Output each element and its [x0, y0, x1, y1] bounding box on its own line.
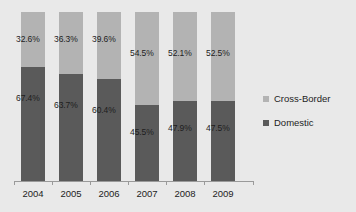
x-axis-label-2004: 2004	[13, 188, 53, 199]
bar-segment-domestic[interactable]: 47.9%	[173, 101, 197, 182]
bar-group-2009[interactable]: 52.5% 47.5%	[211, 12, 235, 182]
x-axis-line	[14, 181, 254, 182]
bar-group-2005[interactable]: 36.3% 63.7%	[59, 12, 83, 182]
bar-label-cross-border: 32.6%	[16, 34, 40, 44]
bar-label-cross-border: 54.5%	[130, 48, 154, 58]
x-axis-label-2007: 2007	[127, 188, 167, 199]
bar-segment-cross-border[interactable]: 52.1%	[173, 12, 197, 101]
bar-label-domestic: 47.9%	[168, 123, 192, 133]
legend-item-domestic[interactable]: Domestic	[263, 114, 353, 131]
bar-segment-cross-border[interactable]: 39.6%	[97, 12, 121, 79]
bar-segment-cross-border[interactable]: 54.5%	[135, 12, 159, 105]
bar-group-2004[interactable]: 32.6% 67.4%	[21, 12, 45, 182]
bar-segment-cross-border[interactable]: 32.6%	[21, 12, 45, 67]
chart-legend: Cross-Border Domestic	[263, 90, 353, 138]
bar-label-cross-border: 52.1%	[168, 48, 192, 58]
legend-item-cross-border[interactable]: Cross-Border	[263, 90, 353, 107]
stacked-bar-chart: 32.6% 67.4% 36.3% 63.7% 39.6% 60.4%	[0, 0, 356, 212]
plot-area: 32.6% 67.4% 36.3% 63.7% 39.6% 60.4%	[14, 6, 254, 182]
bar-segment-domestic[interactable]: 45.5%	[135, 105, 159, 182]
bar-label-domestic: 63.7%	[54, 100, 78, 110]
bar-group-2008[interactable]: 52.1% 47.9%	[173, 12, 197, 182]
bar-label-domestic: 67.4%	[16, 93, 40, 103]
x-axis-label-2009: 2009	[203, 188, 243, 199]
x-axis-label-2006: 2006	[89, 188, 129, 199]
bar-segment-domestic[interactable]: 67.4%	[21, 67, 45, 182]
x-axis-tick	[90, 181, 91, 185]
x-axis-tick	[14, 181, 15, 185]
x-axis-label-2005: 2005	[51, 188, 91, 199]
bar-label-domestic: 60.4%	[92, 105, 116, 115]
legend-swatch-icon	[263, 120, 269, 126]
bar-group-2006[interactable]: 39.6% 60.4%	[97, 12, 121, 182]
x-axis-label-2008: 2008	[165, 188, 205, 199]
bar-label-domestic: 45.5%	[130, 127, 154, 137]
bar-group-2007[interactable]: 54.5% 45.5%	[135, 12, 159, 182]
legend-label-cross-border: Cross-Border	[274, 93, 331, 104]
x-axis-tick	[204, 181, 205, 185]
bar-segment-cross-border[interactable]: 36.3%	[59, 12, 83, 74]
legend-swatch-icon	[263, 96, 269, 102]
bar-label-cross-border: 36.3%	[54, 34, 78, 44]
x-axis-tick	[253, 181, 254, 185]
bar-segment-domestic[interactable]: 60.4%	[97, 79, 121, 182]
bar-label-cross-border: 39.6%	[92, 34, 116, 44]
bar-label-cross-border: 52.5%	[206, 48, 230, 58]
x-axis-tick	[128, 181, 129, 185]
x-axis-tick	[166, 181, 167, 185]
x-axis-tick	[52, 181, 53, 185]
bar-segment-domestic[interactable]: 47.5%	[211, 101, 235, 182]
bar-label-domestic: 47.5%	[206, 123, 230, 133]
bar-segment-cross-border[interactable]: 52.5%	[211, 12, 235, 101]
legend-label-domestic: Domestic	[274, 117, 314, 128]
bar-segment-domestic[interactable]: 63.7%	[59, 74, 83, 182]
